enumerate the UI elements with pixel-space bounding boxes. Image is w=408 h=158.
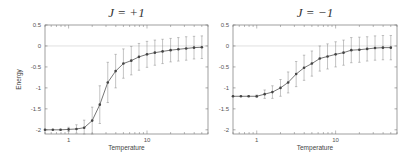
y-tick-label: -2: [36, 127, 42, 133]
data-point: [295, 73, 298, 76]
chart-title: J = +1: [108, 5, 144, 20]
data-point: [138, 56, 141, 59]
data-point: [91, 119, 94, 122]
data-point: [279, 87, 282, 90]
data-point: [232, 95, 235, 98]
data-point: [122, 62, 125, 65]
y-tick-label: -1: [36, 85, 42, 91]
data-point: [318, 57, 321, 60]
data-point: [374, 47, 377, 50]
x-tick-label: 1: [255, 137, 259, 143]
data-point: [52, 129, 55, 132]
data-point: [185, 47, 188, 50]
data-point: [67, 128, 70, 131]
data-point: [303, 66, 306, 69]
data-point: [44, 129, 47, 132]
data-point: [193, 46, 196, 49]
data-point: [240, 95, 243, 98]
data-point: [311, 62, 314, 65]
y-tick-label: -0.5: [219, 64, 230, 70]
y-tick-label: -1.5: [219, 106, 230, 112]
data-point: [75, 128, 78, 131]
x-tick-label: 10: [144, 137, 151, 143]
data-point: [287, 81, 290, 84]
y-tick-label: 0.5: [221, 22, 230, 28]
data-point: [154, 51, 157, 54]
data-point: [201, 46, 204, 49]
x-axis-label: Temperature: [297, 144, 334, 152]
x-tick-label: 10: [332, 137, 339, 143]
data-point: [169, 49, 172, 52]
y-tick-label: 0.5: [33, 22, 42, 28]
data-point: [247, 95, 250, 98]
data-point: [177, 48, 180, 51]
data-point: [358, 48, 361, 51]
data-point: [326, 55, 329, 58]
plot-frame: [45, 25, 208, 134]
y-tick-label: -1.5: [31, 106, 42, 112]
data-point: [350, 49, 353, 52]
data-point: [114, 70, 117, 73]
data-point: [130, 59, 133, 62]
plot-frame: [233, 25, 397, 134]
data-point: [255, 95, 258, 98]
data-point: [161, 50, 164, 53]
y-tick-label: 0: [226, 43, 230, 49]
data-point: [390, 46, 393, 49]
y-tick-label: -1: [224, 85, 230, 91]
chart-title: J = −1: [297, 5, 333, 20]
data-point: [271, 91, 274, 94]
y-tick-label: -2: [224, 127, 230, 133]
chart-canvas: 0.50-0.5-1-1.5-2110TemperatureEnergyJ = …: [0, 0, 408, 158]
data-point: [98, 103, 101, 106]
data-point: [146, 53, 149, 56]
y-axis-label: Energy: [15, 68, 23, 89]
data-point: [366, 48, 369, 51]
y-tick-label: 0: [38, 43, 42, 49]
x-axis-label: Temperature: [108, 144, 145, 152]
data-point: [342, 51, 345, 54]
data-point: [334, 53, 337, 56]
x-tick-label: 1: [67, 137, 71, 143]
data-point: [263, 93, 266, 96]
chart-panel-2: 0.50-0.5-1-1.5-2110TemperatureJ = −1: [219, 5, 397, 152]
data-point: [382, 46, 385, 49]
data-point: [59, 129, 62, 132]
y-tick-label: -0.5: [31, 64, 42, 70]
data-point: [106, 81, 109, 84]
data-point: [83, 126, 86, 129]
chart-panel-1: 0.50-0.5-1-1.5-2110TemperatureEnergyJ = …: [15, 5, 208, 152]
